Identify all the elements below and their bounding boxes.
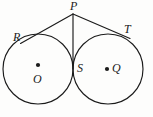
center-dot-O <box>36 63 40 67</box>
figure-canvas <box>0 0 153 117</box>
center-dot-Q <box>105 67 109 71</box>
segment-PR <box>21 14 74 44</box>
point-label-R: R <box>13 31 20 43</box>
point-label-Q: Q <box>112 62 121 74</box>
point-label-T: T <box>124 23 131 35</box>
geometry-diagram: P R T S O Q <box>0 0 153 117</box>
point-label-S: S <box>77 62 83 74</box>
point-label-P: P <box>70 0 77 12</box>
point-label-O: O <box>33 73 42 85</box>
circle-O <box>3 34 73 104</box>
